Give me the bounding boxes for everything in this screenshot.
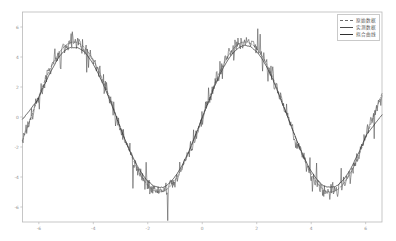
y-tick-label: -6 bbox=[15, 205, 20, 210]
x-tick-label: 2 bbox=[255, 226, 258, 231]
axis-ticks bbox=[20, 27, 365, 224]
legend-swatch-original bbox=[340, 20, 353, 21]
x-tick-label: -4 bbox=[91, 226, 96, 231]
legend-swatch-fitted bbox=[340, 34, 353, 35]
axis-tick-labels: -6-4-20246-6-4-20246 bbox=[15, 25, 368, 231]
legend-label-measured: 实测数据 bbox=[356, 24, 376, 31]
chart-figure: -6-4-20246-6-4-20246 原始数据 实测数据 拟合曲线 bbox=[0, 0, 396, 241]
x-tick-label: -2 bbox=[146, 226, 151, 231]
y-tick-label: -4 bbox=[15, 175, 20, 180]
y-tick-label: 6 bbox=[16, 25, 19, 30]
legend-item-fitted[interactable]: 拟合曲线 bbox=[340, 31, 376, 38]
x-tick-label: 6 bbox=[364, 226, 367, 231]
y-tick-label: 0 bbox=[16, 115, 19, 120]
legend-swatch-measured bbox=[340, 27, 353, 28]
x-tick-label: 4 bbox=[310, 226, 313, 231]
x-tick-label: 0 bbox=[201, 226, 204, 231]
x-tick-label: -6 bbox=[37, 226, 42, 231]
y-tick-label: 4 bbox=[16, 55, 19, 60]
y-tick-label: -2 bbox=[15, 145, 20, 150]
legend-item-measured[interactable]: 实测数据 bbox=[340, 24, 376, 31]
legend-label-fitted: 拟合曲线 bbox=[356, 31, 376, 38]
y-tick-label: 2 bbox=[16, 85, 19, 90]
chart-legend: 原始数据 实测数据 拟合曲线 bbox=[337, 14, 380, 41]
legend-label-original: 原始数据 bbox=[356, 17, 376, 24]
legend-item-original[interactable]: 原始数据 bbox=[340, 17, 376, 24]
